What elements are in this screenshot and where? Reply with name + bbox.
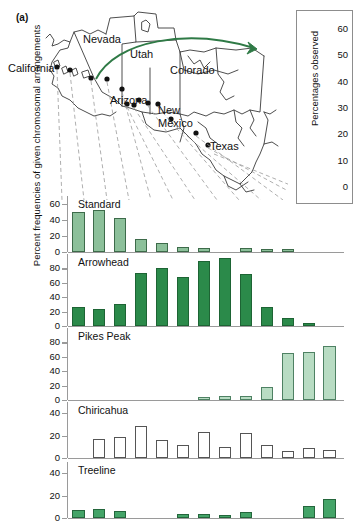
- chart-panel-chiricahua: 02040Chiricahua: [0, 402, 353, 468]
- plot-area: [68, 462, 340, 518]
- y-tick-mark: [62, 220, 67, 221]
- bar: [303, 448, 315, 458]
- bar: [114, 437, 126, 458]
- bar: [303, 323, 315, 326]
- bar: [261, 307, 273, 326]
- y-tick-label: 20: [36, 431, 60, 440]
- bar: [323, 450, 335, 458]
- y-tick-mark: [62, 326, 67, 327]
- map-label-texas: Texas: [210, 140, 239, 152]
- bar: [261, 445, 273, 458]
- y-tick-label: 40: [36, 408, 60, 417]
- panel-b-ylabel: Percentages observed: [309, 24, 320, 134]
- plot-area: [68, 254, 340, 326]
- y-tick-mark: [62, 268, 67, 269]
- bar: [240, 396, 252, 400]
- y-tick-mark: [62, 518, 67, 519]
- y-tick-mark: [62, 386, 67, 387]
- panel-b-ytick: 30: [332, 102, 348, 113]
- y-tick-label: 40: [36, 215, 60, 224]
- y-tick-mark: [62, 458, 67, 459]
- bar: [303, 506, 315, 518]
- bar: [261, 387, 273, 400]
- bar: [198, 248, 210, 252]
- bar: [323, 346, 335, 400]
- map-label-new: New: [158, 104, 180, 116]
- bar: [135, 426, 147, 458]
- bar: [282, 451, 294, 458]
- y-tick-label: 40: [36, 366, 60, 375]
- chart-panel-pikes-peak: 020406080Pikes Peak: [0, 328, 353, 410]
- panel-b-ytick: 0: [332, 181, 348, 192]
- plot-area: [68, 196, 340, 252]
- bar: [114, 511, 126, 518]
- x-axis-baseline: [68, 458, 344, 459]
- y-tick-label: 80: [36, 337, 60, 346]
- panel-b-ytick: 40: [332, 76, 348, 87]
- panel-b-ytick: 60: [332, 23, 348, 34]
- panel-b-frame: Percentages observed 6050403020100: [296, 10, 353, 204]
- y-tick-mark: [62, 236, 67, 237]
- y-tick-mark: [62, 413, 67, 414]
- map-label-colorado: Colorado: [170, 64, 215, 76]
- bar: [198, 397, 210, 400]
- map-outline-svg: [38, 4, 288, 200]
- bar: [72, 510, 84, 518]
- bar: [240, 512, 252, 518]
- panel-b-ytick: 50: [332, 49, 348, 60]
- y-tick-label: 0: [36, 453, 60, 462]
- y-tick-label: 60: [36, 352, 60, 361]
- bar: [198, 261, 210, 326]
- chart-panel-treeline: 02040Treeline: [0, 462, 353, 525]
- y-tick-label: 80: [36, 263, 60, 272]
- bar: [240, 274, 252, 326]
- bar: [219, 258, 231, 326]
- bar: [198, 432, 210, 458]
- map-label-mexico: Mexico: [158, 117, 193, 129]
- y-tick-mark: [62, 357, 67, 358]
- y-tick-mark: [62, 371, 67, 372]
- bar: [240, 433, 252, 458]
- bar: [114, 304, 126, 326]
- bar: [303, 352, 315, 400]
- y-tick-label: 40: [36, 468, 60, 477]
- y-tick-mark: [62, 297, 67, 298]
- y-tick-mark: [62, 473, 67, 474]
- figure-root: (a) (b): [0, 0, 353, 525]
- y-tick-label: 60: [36, 278, 60, 287]
- y-tick-mark: [62, 204, 67, 205]
- bar: [323, 499, 335, 518]
- map-label-nevada: Nevada: [83, 33, 121, 45]
- y-tick-mark: [62, 436, 67, 437]
- panel-b-ytick: 20: [332, 128, 348, 139]
- chart-stack: 0204060Standard020406080Arrowhead0204060…: [0, 196, 353, 525]
- leader-lines: [57, 70, 288, 200]
- bar: [93, 309, 105, 326]
- bar: [282, 249, 294, 252]
- y-tick-mark: [62, 283, 67, 284]
- bar: [156, 440, 168, 458]
- chart-panel-standard: 0204060Standard: [0, 196, 353, 262]
- y-tick-label: 60: [36, 199, 60, 208]
- map-region: California Nevada Utah Colorado Arizona …: [38, 4, 288, 200]
- bar: [261, 249, 273, 252]
- bar: [282, 318, 294, 326]
- bar: [219, 396, 231, 400]
- bar: [93, 509, 105, 518]
- x-axis-baseline: [68, 518, 344, 519]
- y-tick-mark: [62, 312, 67, 313]
- y-tick-label: 20: [36, 231, 60, 240]
- bar: [93, 210, 105, 252]
- bar: [156, 268, 168, 326]
- map-label-utah: Utah: [130, 48, 153, 60]
- bar: [72, 212, 84, 252]
- bar: [177, 514, 189, 518]
- bar: [93, 439, 105, 458]
- y-tick-mark: [62, 342, 67, 343]
- y-tick-mark: [62, 496, 67, 497]
- bar: [135, 273, 147, 326]
- bar: [114, 218, 126, 252]
- y-tick-mark: [62, 400, 67, 401]
- bar: [219, 447, 231, 458]
- bar: [135, 239, 147, 252]
